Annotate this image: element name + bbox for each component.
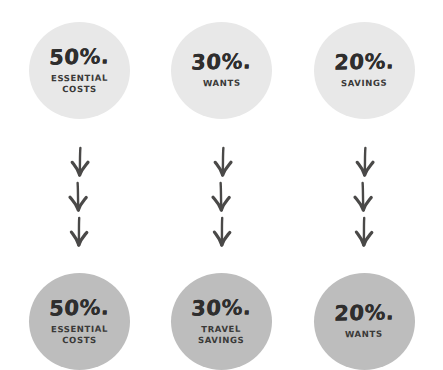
percent-value: 20%. — [333, 51, 394, 73]
category-label-line-2: SAVINGS — [198, 334, 244, 345]
percent-value: 20%. — [333, 302, 394, 324]
down-arrow-icon — [207, 180, 234, 213]
category-label: SAVINGS — [341, 78, 387, 89]
bottom-circle-column-1: 50%. ESSENTIAL COSTS — [29, 273, 130, 370]
budget-flow-diagram: 50%. ESSENTIAL COSTS — [0, 0, 443, 370]
flow-column-essential-costs: 50%. ESSENTIAL COSTS — [14, 0, 144, 370]
down-arrow-icon — [351, 215, 377, 247]
down-arrow-icon — [208, 215, 234, 247]
percent-value: 30%. — [191, 297, 252, 319]
category-label-line-1: ESSENTIAL — [50, 72, 107, 84]
top-circle-column-2: 30%. WANTS — [171, 22, 272, 119]
category-label: TRAVEL SAVINGS — [198, 323, 245, 345]
bottom-circle-column-3: 20%. WANTS — [314, 273, 415, 370]
percent-value: 30%. — [191, 51, 252, 73]
category-label-line-1: WANTS — [345, 329, 383, 340]
category-label: ESSENTIAL COSTS — [50, 323, 107, 346]
flow-column-wants-to-travel-savings: 30%. WANTS 30%. — [157, 0, 287, 370]
category-label-line-1: TRAVEL — [198, 323, 244, 334]
category-label: WANTS — [345, 329, 383, 340]
flow-column-savings-to-wants: 20%. SAVINGS 20%. — [299, 0, 429, 370]
down-arrow-icon — [209, 145, 236, 178]
arrow-stack-column-1 — [66, 119, 92, 273]
category-label-line-1: WANTS — [203, 78, 241, 89]
percent-value: 50%. — [48, 297, 109, 319]
category-label-line-1: SAVINGS — [341, 78, 387, 89]
bottom-circle-column-2: 30%. TRAVEL SAVINGS — [171, 273, 272, 370]
arrow-stack-column-2 — [209, 119, 235, 273]
down-arrow-icon — [67, 145, 94, 178]
down-arrow-icon — [66, 215, 92, 247]
top-circle-column-1: 50%. ESSENTIAL COSTS — [29, 22, 130, 119]
arrow-stack-column-3 — [351, 119, 377, 273]
category-label: ESSENTIAL COSTS — [50, 72, 107, 95]
category-label: WANTS — [203, 78, 241, 89]
down-arrow-icon — [352, 145, 379, 178]
category-label-line-2: COSTS — [51, 334, 108, 345]
top-circle-column-3: 20%. SAVINGS — [314, 22, 415, 119]
percent-value: 50%. — [48, 46, 109, 68]
category-label-line-2: COSTS — [51, 83, 108, 94]
down-arrow-icon — [65, 180, 92, 213]
down-arrow-icon — [350, 180, 377, 213]
category-label-line-1: ESSENTIAL — [50, 323, 107, 335]
